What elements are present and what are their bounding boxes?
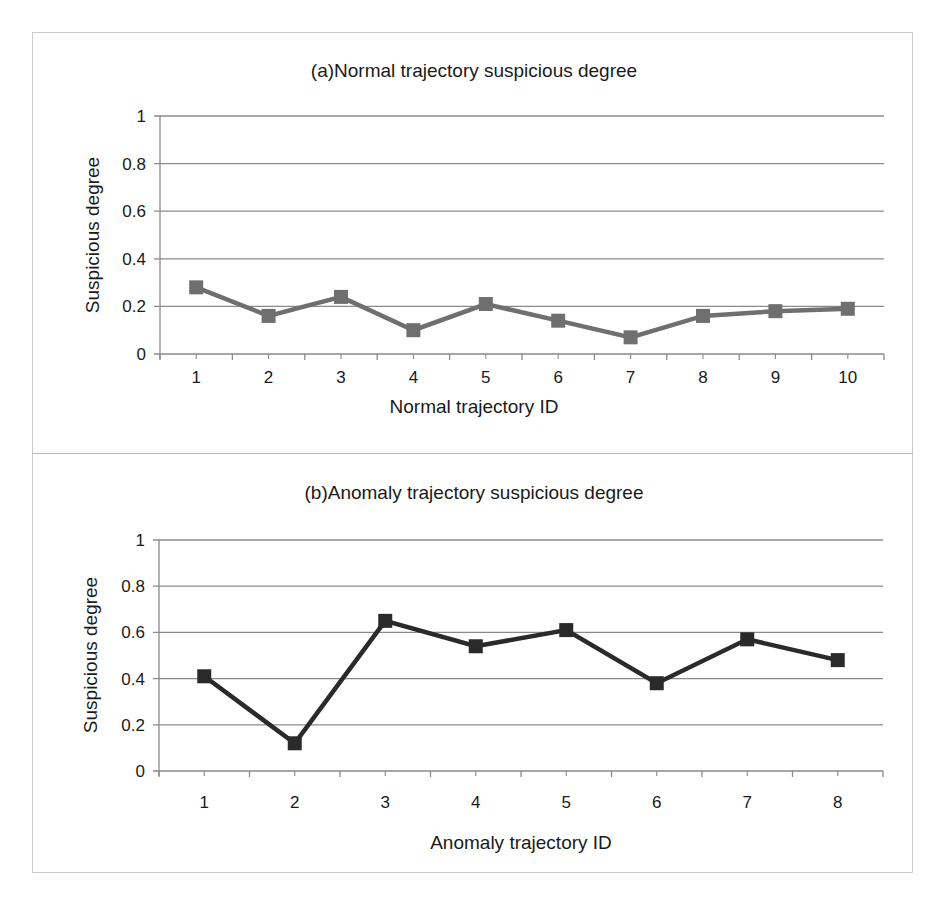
y-axis-label: Suspicious degree <box>80 577 101 733</box>
square-marker-icon <box>841 302 855 316</box>
square-marker-icon <box>334 290 348 304</box>
y-tick-label: 0.8 <box>121 577 145 596</box>
square-marker-icon <box>189 280 203 294</box>
x-tick-label: 5 <box>481 368 490 387</box>
x-tick-label: 6 <box>652 793 661 812</box>
anomaly-trajectory-chart: (b)Anomaly trajectory suspicious degree … <box>80 482 883 853</box>
x-tick-label: 9 <box>771 368 780 387</box>
square-marker-icon <box>624 330 638 344</box>
square-marker-icon <box>831 653 845 667</box>
x-tick-label: 10 <box>838 368 857 387</box>
y-tick-label: 1 <box>136 531 145 550</box>
x-tick-label: 1 <box>191 368 200 387</box>
y-tick-label: 1 <box>137 107 146 126</box>
square-marker-icon <box>559 623 573 637</box>
x-tick-label: 3 <box>381 793 390 812</box>
y-tick-label: 0.4 <box>122 250 146 269</box>
square-marker-icon <box>551 314 565 328</box>
x-tick-label: 4 <box>471 793 480 812</box>
y-tick-label: 0 <box>137 345 146 364</box>
y-tick-label: 0.6 <box>122 202 146 221</box>
square-marker-icon <box>768 304 782 318</box>
square-marker-icon <box>479 297 493 311</box>
square-marker-icon <box>696 309 710 323</box>
x-axis-label: Anomaly trajectory ID <box>430 832 612 853</box>
y-axis-label: Suspicious degree <box>82 157 103 313</box>
x-tick-label: 1 <box>200 793 209 812</box>
gridlines <box>153 540 883 776</box>
chart-title: (b)Anomaly trajectory suspicious degree <box>305 482 644 503</box>
square-marker-icon <box>288 736 302 750</box>
x-axis-label: Normal trajectory ID <box>390 396 559 417</box>
x-tick-label: 7 <box>743 793 752 812</box>
square-marker-icon <box>262 309 276 323</box>
x-tick-label: 6 <box>553 368 562 387</box>
y-tick-label: 0.2 <box>121 716 145 735</box>
x-tick-label: 4 <box>409 368 418 387</box>
x-axis-ticks: 12345678910 <box>160 354 884 387</box>
x-tick-label: 2 <box>264 368 273 387</box>
data-series <box>189 280 855 344</box>
series-line <box>196 287 848 337</box>
y-axis-ticks: 00.20.40.60.81 <box>121 531 145 781</box>
y-tick-label: 0.2 <box>122 297 146 316</box>
square-marker-icon <box>197 669 211 683</box>
x-tick-label: 5 <box>562 793 571 812</box>
y-tick-label: 0.8 <box>122 155 146 174</box>
y-tick-label: 0.4 <box>121 670 145 689</box>
y-tick-label: 0 <box>136 762 145 781</box>
x-tick-label: 3 <box>336 368 345 387</box>
y-axis-ticks: 00.20.40.60.81 <box>122 107 146 364</box>
x-tick-label: 2 <box>290 793 299 812</box>
y-tick-label: 0.6 <box>121 623 145 642</box>
x-tick-label: 7 <box>626 368 635 387</box>
normal-trajectory-chart: (a)Normal trajectory suspicious degree 0… <box>82 60 884 417</box>
square-marker-icon <box>406 323 420 337</box>
x-tick-label: 8 <box>698 368 707 387</box>
square-marker-icon <box>740 632 754 646</box>
data-series <box>197 614 845 750</box>
chart-title: (a)Normal trajectory suspicious degree <box>311 60 637 81</box>
chart-canvas: (a)Normal trajectory suspicious degree 0… <box>0 0 937 905</box>
x-tick-label: 8 <box>833 793 842 812</box>
square-marker-icon <box>378 614 392 628</box>
square-marker-icon <box>650 676 664 690</box>
square-marker-icon <box>469 639 483 653</box>
x-axis-ticks: 12345678 <box>159 771 883 812</box>
